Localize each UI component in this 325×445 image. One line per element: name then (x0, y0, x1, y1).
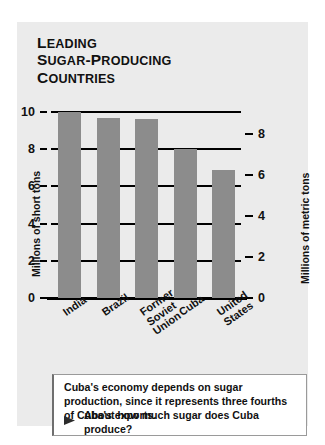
y-axis-right-title: Millions of metric tons (299, 173, 311, 284)
y-axis-left-tick-mark (40, 111, 47, 113)
caption-question: About how much sugar does Cuba produce? (84, 408, 289, 436)
y-axis-right-tick-label: 4 (258, 210, 278, 223)
bar (58, 112, 81, 298)
y-axis-left-tick-label: 10 (9, 106, 35, 119)
y-axis-right-tick-label: 2 (258, 251, 278, 264)
y-axis-right-tick-label: 0 (258, 292, 278, 305)
chart-title-line-1: LEADING (37, 34, 267, 51)
bar (135, 119, 158, 298)
y-axis-right-tick-label: 8 (258, 128, 278, 141)
y-axis-left-tick-label: 6 (9, 180, 35, 193)
bar (174, 149, 197, 298)
chart-title-line-3: COUNTRIES (37, 69, 267, 86)
y-axis-left-tick-mark (40, 148, 47, 150)
y-axis-right-tick-mark (245, 256, 253, 258)
plot-area: 108642086420IndiaBrazilFormerSovietUnion… (51, 112, 241, 298)
y-axis-left-tick-label: 4 (9, 218, 35, 231)
y-axis-left-tick-mark (40, 297, 47, 299)
y-axis-right-tick-mark (245, 215, 253, 217)
y-axis-right-tick-label: 6 (258, 169, 278, 182)
bar (212, 170, 235, 298)
y-axis-right-tick-mark (245, 174, 253, 176)
figure-root: LEADING SUGAR-PRODUCING COUNTRIES Millio… (0, 0, 325, 445)
y-axis-right-tick-mark (245, 133, 253, 135)
caption-question-row: About how much sugar does Cuba produce? (64, 408, 304, 436)
bar (97, 118, 120, 298)
y-axis-left-tick-label: 0 (9, 292, 35, 305)
chart-title: LEADING SUGAR-PRODUCING COUNTRIES (37, 34, 267, 86)
caption-box: Cuba's economy depends on sugar producti… (52, 374, 307, 436)
y-axis-left-tick-mark (40, 223, 47, 225)
y-axis-left-tick-mark (40, 260, 47, 262)
chart-title-line-2: SUGAR-PRODUCING (37, 51, 267, 68)
triangle-right-icon (64, 411, 75, 436)
y-axis-left-tick-mark (40, 185, 47, 187)
figure-panel: LEADING SUGAR-PRODUCING COUNTRIES Millio… (17, 22, 308, 426)
y-axis-left-tick-label: 8 (9, 143, 35, 156)
y-axis-left-tick-label: 2 (9, 255, 35, 268)
